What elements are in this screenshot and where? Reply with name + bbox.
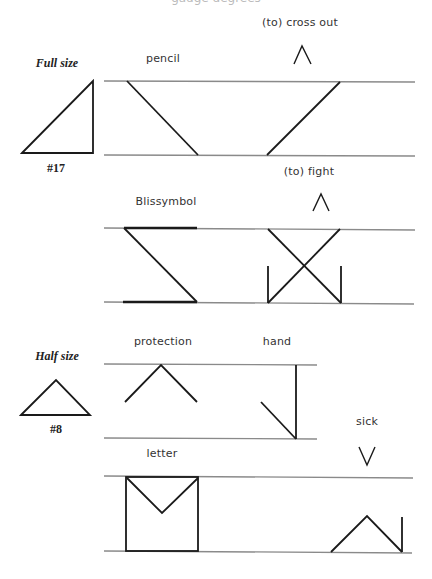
guide-lines-row-4 xyxy=(104,476,413,553)
diagram-canvas xyxy=(0,0,432,579)
indicator-sick-v-icon xyxy=(359,447,375,465)
symbol-fight xyxy=(268,229,341,303)
template-triangle-17 xyxy=(22,81,93,153)
guide-lines-row-1 xyxy=(104,81,415,156)
symbol-sick xyxy=(331,516,402,552)
symbol-protection xyxy=(125,365,197,402)
symbol-letter xyxy=(126,477,198,551)
indicator-fight-caret-icon xyxy=(313,194,329,211)
symbol-hand xyxy=(261,365,296,439)
symbol-cross-out xyxy=(267,82,340,155)
indicator-cross-out-caret-icon xyxy=(294,46,311,64)
symbol-blissymbol xyxy=(123,228,197,302)
template-triangle-8 xyxy=(21,380,90,415)
symbol-pencil xyxy=(127,81,198,155)
guide-lines-row-2 xyxy=(104,228,415,304)
